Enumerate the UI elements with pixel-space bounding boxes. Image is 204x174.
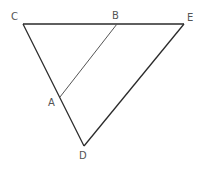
label-e: E (187, 12, 193, 23)
segment-cd (23, 24, 84, 146)
segment-de (84, 24, 184, 146)
segment-ab (60, 24, 117, 97)
label-d: D (79, 150, 87, 161)
geometry-diagram: C B E A D (0, 0, 204, 174)
label-b: B (112, 10, 119, 21)
label-c: C (11, 11, 18, 22)
label-a: A (48, 97, 55, 108)
